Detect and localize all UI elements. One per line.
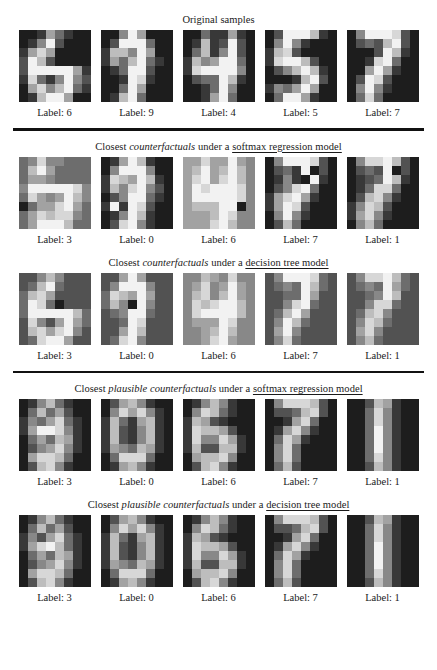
image-pixel	[64, 515, 73, 524]
image-pixel	[246, 211, 255, 220]
image-pixel	[219, 444, 228, 453]
image-pixel	[228, 300, 237, 309]
image-pixel	[110, 300, 119, 309]
image-pixel	[19, 408, 28, 417]
image-pixel	[119, 211, 128, 220]
image-pixel	[210, 39, 219, 48]
image-pixel	[37, 166, 46, 175]
image-pixel	[328, 309, 337, 318]
image-pixel	[19, 300, 28, 309]
image-pixel	[64, 75, 73, 84]
image-pixel	[328, 569, 337, 578]
image-pixel	[64, 336, 73, 345]
caption-part: Closest	[88, 499, 122, 510]
image-pixel	[274, 93, 283, 102]
image-pixel	[128, 300, 137, 309]
image-pixel	[137, 273, 146, 282]
image-pixel	[201, 48, 210, 57]
image-pixel	[410, 157, 419, 166]
image-pixel	[55, 524, 64, 533]
image-pixel	[82, 408, 91, 417]
image-pixel	[410, 399, 419, 408]
image-pixel	[392, 75, 401, 84]
image-pixel	[283, 426, 292, 435]
image-pixel	[237, 273, 246, 282]
image-pixel	[164, 417, 173, 426]
image-pixel	[137, 75, 146, 84]
image-pixel	[392, 336, 401, 345]
section-spacer	[0, 246, 437, 256]
image-pixel	[73, 184, 82, 193]
digit-label: Label: 7	[365, 107, 400, 119]
image-pixel	[46, 408, 55, 417]
image-pixel	[383, 560, 392, 569]
digit-label: Label: 7	[283, 476, 318, 488]
image-pixel	[128, 193, 137, 202]
image-pixel	[137, 462, 146, 471]
image-pixel	[392, 515, 401, 524]
image-pixel	[201, 57, 210, 66]
image-pixel	[210, 282, 219, 291]
image-pixel	[319, 193, 328, 202]
image-pixel	[365, 175, 374, 184]
image-pixel	[155, 533, 164, 542]
image-pixel	[155, 569, 164, 578]
image-pixel	[292, 84, 301, 93]
caption-part: counterfactuals	[129, 141, 195, 152]
image-pixel	[210, 66, 219, 75]
digit-image	[265, 399, 337, 471]
image-pixel	[246, 66, 255, 75]
image-pixel	[383, 66, 392, 75]
image-pixel	[392, 39, 401, 48]
digit-image	[19, 157, 91, 229]
image-pixel	[210, 444, 219, 453]
image-pixel	[28, 193, 37, 202]
image-pixel	[46, 273, 55, 282]
image-pixel	[365, 417, 374, 426]
image-pixel	[274, 184, 283, 193]
image-pixel	[101, 291, 110, 300]
image-pixel	[210, 93, 219, 102]
image-pixel	[183, 462, 192, 471]
image-pixel	[347, 408, 356, 417]
digit-image	[19, 399, 91, 471]
image-pixel	[265, 157, 274, 166]
image-pixel	[410, 93, 419, 102]
image-pixel	[219, 309, 228, 318]
image-pixel	[82, 291, 91, 300]
image-pixel	[28, 300, 37, 309]
image-pixel	[155, 515, 164, 524]
image-pixel	[392, 282, 401, 291]
image-pixel	[119, 399, 128, 408]
image-pixel	[183, 551, 192, 560]
digit-image	[101, 30, 173, 102]
image-pixel	[292, 184, 301, 193]
image-pixel	[228, 39, 237, 48]
image-pixel	[73, 300, 82, 309]
image-pixel	[265, 560, 274, 569]
image-pixel	[383, 157, 392, 166]
image-pixel	[392, 66, 401, 75]
image-pixel	[128, 39, 137, 48]
image-pixel	[356, 66, 365, 75]
image-pixel	[28, 84, 37, 93]
image-pixel	[201, 462, 210, 471]
image-pixel	[301, 309, 310, 318]
image-pixel	[19, 291, 28, 300]
image-pixel	[46, 309, 55, 318]
image-pixel	[283, 533, 292, 542]
image-pixel	[274, 417, 283, 426]
image-pixel	[101, 30, 110, 39]
image-pixel	[392, 220, 401, 229]
image-pixel	[319, 417, 328, 426]
image-pixel	[319, 533, 328, 542]
image-pixel	[347, 578, 356, 587]
image-pixel	[365, 300, 374, 309]
image-pixel	[228, 202, 237, 211]
image-pixel	[101, 560, 110, 569]
image-pixel	[319, 435, 328, 444]
image-pixel	[55, 327, 64, 336]
image-pixel	[46, 569, 55, 578]
image-pixel	[265, 462, 274, 471]
image-pixel	[101, 93, 110, 102]
